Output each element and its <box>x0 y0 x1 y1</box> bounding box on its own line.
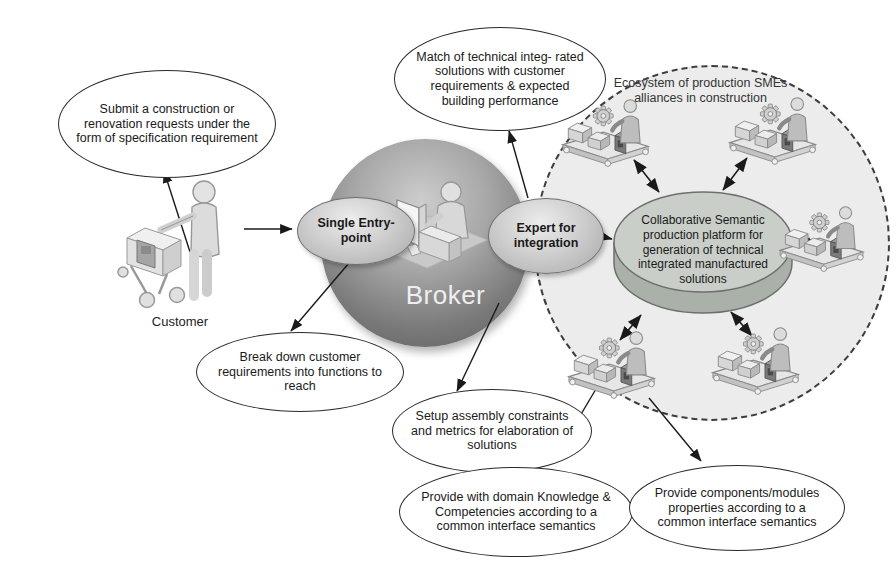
factory-worker-icon <box>566 330 658 400</box>
provide-knowledge-node: Provide with domain Knowledge & Competen… <box>399 467 633 557</box>
platform-cylinder-label: Collaborative Semantic production platfo… <box>620 196 786 304</box>
match-solutions-node: Match of technical integ- rated solution… <box>394 27 606 131</box>
customer-cart-icon <box>103 176 253 316</box>
factory-worker-icon <box>727 96 819 166</box>
setup-constraints-node: Setup assembly constraints and metrics f… <box>392 389 592 473</box>
factory-worker-icon <box>710 326 802 396</box>
diagram-canvas: Submit a construction or renovation requ… <box>0 0 896 570</box>
broker-label: Broker <box>383 280 508 311</box>
provide-components-node: Provide components/modules properties ac… <box>629 465 845 551</box>
single-entry-point-node: Single Entry-point <box>297 197 415 265</box>
break-down-node: Break down customer requirements into fu… <box>196 332 404 412</box>
factory-worker-icon <box>777 205 867 273</box>
ecosystem-label: Ecosystem of production SMEs alliances i… <box>598 76 803 106</box>
expert-integration-node: Expert for integration <box>488 198 604 274</box>
submit-request-node: Submit a construction or renovation requ… <box>58 70 276 178</box>
customer-label: Customer <box>130 314 230 329</box>
